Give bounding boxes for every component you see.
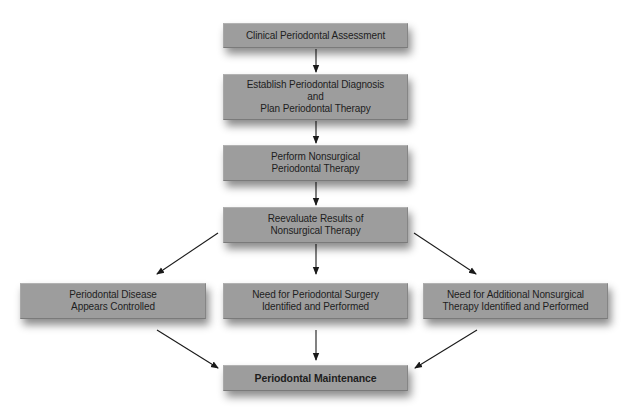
node-label-line: Identified and Performed xyxy=(262,301,369,313)
arrow-additional-to-maintenance xyxy=(415,330,477,368)
node-label-line: Clinical Periodontal Assessment xyxy=(246,30,385,42)
node-clinical-periodontal-assessment: Clinical Periodontal Assessment xyxy=(223,23,408,48)
node-establish-diagnosis-plan-therapy: Establish Periodontal Diagnosis and Plan… xyxy=(223,74,408,120)
node-label-line: Need for Additional Nonsurgical xyxy=(447,289,584,301)
node-periodontal-maintenance: Periodontal Maintenance xyxy=(223,365,408,391)
arrow-reevaluate-to-controlled xyxy=(157,233,218,274)
node-disease-appears-controlled: Periodontal Disease Appears Controlled xyxy=(20,283,206,319)
node-label-line: Appears Controlled xyxy=(71,301,155,313)
node-perform-nonsurgical-therapy: Perform Nonsurgical Periodontal Therapy xyxy=(223,145,408,181)
node-label-line: Periodontal Maintenance xyxy=(255,372,377,384)
node-label-line: Establish Periodontal Diagnosis xyxy=(247,79,385,91)
node-surgery-identified-performed: Need for Periodontal Surgery Identified … xyxy=(223,283,408,319)
node-label-line: and xyxy=(307,91,323,103)
node-label-line: Therapy Identified and Performed xyxy=(443,301,589,313)
arrow-reevaluate-to-additional xyxy=(414,233,476,274)
node-reevaluate-results: Reevaluate Results of Nonsurgical Therap… xyxy=(223,207,408,243)
arrow-controlled-to-maintenance xyxy=(157,330,218,368)
node-additional-nonsurgical-therapy: Need for Additional Nonsurgical Therapy … xyxy=(423,283,608,319)
node-label-line: Periodontal Disease xyxy=(69,289,157,301)
node-label-line: Reevaluate Results of xyxy=(268,213,364,225)
node-label-line: Nonsurgical Therapy xyxy=(270,225,360,237)
node-label-line: Need for Periodontal Surgery xyxy=(252,289,379,301)
node-label-line: Plan Periodontal Therapy xyxy=(260,103,370,115)
node-label-line: Periodontal Therapy xyxy=(272,163,360,175)
node-label-line: Perform Nonsurgical xyxy=(271,151,360,163)
